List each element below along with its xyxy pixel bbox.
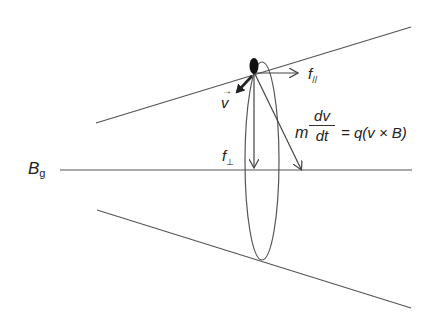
equation-rhs: = q(v × B) xyxy=(341,125,407,140)
lower-field-line xyxy=(97,210,411,308)
diagram-canvas xyxy=(0,0,437,327)
particle xyxy=(250,58,259,74)
field-label: Bg xyxy=(28,160,45,177)
equation-fraction: dv dt xyxy=(309,108,335,143)
velocity-label: →v xyxy=(221,95,229,110)
force-arrow xyxy=(254,72,301,169)
f-perp-label: f⊥ xyxy=(222,148,234,163)
equation-numerator: dv xyxy=(314,108,330,123)
equation-denominator: dt xyxy=(316,128,329,143)
equation-m: m xyxy=(295,125,308,141)
f-parallel-label: f// xyxy=(308,66,317,81)
gyration-orbit xyxy=(245,62,279,260)
